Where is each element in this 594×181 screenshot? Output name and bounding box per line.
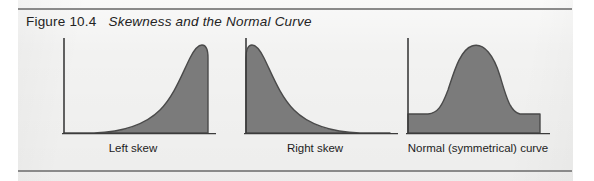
normal-curve-label: Normal (symmetrical) curve xyxy=(398,142,558,154)
figure-top-rule xyxy=(18,8,572,10)
left-skew-label: Left skew xyxy=(48,142,218,154)
right-skew-plot xyxy=(230,34,400,142)
normal-curve-svg xyxy=(398,34,558,142)
figure-panels: Left skew Right skew Norma xyxy=(18,34,572,168)
left-skew-svg xyxy=(48,34,218,142)
panel-normal-curve: Normal (symmetrical) curve xyxy=(398,34,558,168)
panel-left-skew: Left skew xyxy=(48,34,218,168)
page-left-margin xyxy=(0,0,18,181)
page-right-margin xyxy=(573,0,594,181)
figure-number: Figure 10.4 xyxy=(26,14,97,29)
panel-right-skew: Right skew xyxy=(230,34,400,168)
right-skew-svg xyxy=(230,34,400,142)
normal-curve-area xyxy=(408,45,540,133)
figure-title: Skewness and the Normal Curve xyxy=(109,14,312,29)
right-skew-label: Right skew xyxy=(230,142,400,154)
left-skew-area xyxy=(64,45,208,133)
left-skew-plot xyxy=(48,34,218,142)
figure-container: Figure 10.4Skewness and the Normal Curve… xyxy=(0,0,594,181)
figure-caption: Figure 10.4Skewness and the Normal Curve xyxy=(26,14,312,29)
right-skew-area xyxy=(246,45,390,133)
figure-bottom-rule xyxy=(18,170,572,172)
normal-curve-plot xyxy=(398,34,558,142)
